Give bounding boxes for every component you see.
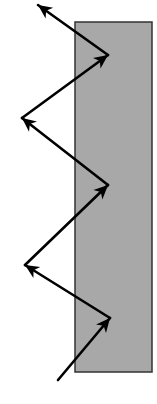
arrowhead-icon <box>38 5 53 18</box>
arrowhead-icon <box>25 265 40 278</box>
arrowhead-icon <box>22 118 37 132</box>
zigzag-reflection-diagram <box>0 0 157 404</box>
gray-slab <box>75 22 152 372</box>
